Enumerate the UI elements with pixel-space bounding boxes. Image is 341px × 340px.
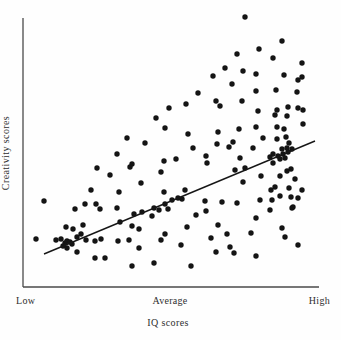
scatter-points xyxy=(33,14,305,268)
data-point xyxy=(250,145,255,150)
data-point xyxy=(158,169,163,174)
data-point xyxy=(284,113,289,118)
data-point xyxy=(274,107,279,112)
data-point xyxy=(188,263,193,268)
y-axis-title: Creativity scores xyxy=(0,116,11,190)
data-point xyxy=(151,260,156,265)
data-point xyxy=(116,189,121,194)
data-point xyxy=(82,201,87,206)
data-point xyxy=(162,231,167,236)
data-point xyxy=(299,187,304,192)
data-point xyxy=(136,245,141,250)
data-point xyxy=(229,81,234,86)
data-point xyxy=(129,263,134,268)
data-point xyxy=(300,121,305,126)
data-point xyxy=(203,208,208,213)
data-point xyxy=(204,160,209,165)
data-point xyxy=(63,224,68,229)
data-point xyxy=(126,237,131,242)
data-point xyxy=(102,255,107,260)
data-point xyxy=(258,173,263,178)
x-tick-average: Average xyxy=(152,295,187,306)
data-point xyxy=(190,145,195,150)
data-point xyxy=(253,124,258,129)
data-point xyxy=(239,98,244,103)
data-point xyxy=(184,224,189,229)
data-point xyxy=(208,235,213,240)
data-point xyxy=(98,236,103,241)
data-point xyxy=(286,185,291,190)
data-point xyxy=(234,51,239,56)
data-point xyxy=(240,68,245,73)
data-point xyxy=(272,184,277,189)
x-tick-low: Low xyxy=(16,295,36,306)
data-point xyxy=(183,101,188,106)
data-point xyxy=(158,237,163,242)
data-point xyxy=(272,112,277,117)
data-point xyxy=(88,187,93,192)
data-point xyxy=(292,176,297,181)
data-point xyxy=(217,103,222,108)
data-point xyxy=(300,107,305,112)
data-point xyxy=(277,173,282,178)
data-point xyxy=(195,90,200,95)
data-point xyxy=(283,134,288,139)
data-point xyxy=(202,198,207,203)
data-point xyxy=(80,222,85,227)
data-point xyxy=(295,77,300,82)
data-point xyxy=(203,153,208,158)
data-point xyxy=(273,87,278,92)
data-point xyxy=(74,249,79,254)
data-point xyxy=(161,189,166,194)
data-point xyxy=(97,206,102,211)
data-point xyxy=(224,231,229,236)
x-tick-high: High xyxy=(309,295,330,306)
data-point xyxy=(107,172,112,177)
data-point xyxy=(230,139,235,144)
data-point xyxy=(294,89,299,94)
data-point xyxy=(93,201,98,206)
data-point xyxy=(219,199,224,204)
data-point xyxy=(231,250,236,255)
data-point xyxy=(227,244,232,249)
data-point xyxy=(232,167,237,172)
data-point xyxy=(214,141,219,146)
data-point xyxy=(285,104,290,109)
data-point xyxy=(295,242,300,247)
x-axis-title: IQ scores xyxy=(147,317,189,328)
data-point xyxy=(282,234,287,239)
data-point xyxy=(255,108,260,113)
data-point xyxy=(289,205,294,210)
data-point xyxy=(53,237,58,242)
data-point xyxy=(166,105,171,110)
data-point xyxy=(279,225,284,230)
data-point xyxy=(185,131,190,136)
data-point xyxy=(256,46,261,51)
data-point xyxy=(236,126,241,131)
data-point xyxy=(165,206,170,211)
data-point xyxy=(286,140,291,145)
data-point xyxy=(94,165,99,170)
data-point xyxy=(279,38,284,43)
data-point xyxy=(277,193,282,198)
data-point xyxy=(115,238,120,243)
data-point xyxy=(64,245,69,250)
data-point xyxy=(248,230,253,235)
data-point xyxy=(162,125,167,130)
data-point xyxy=(270,160,275,165)
data-point xyxy=(149,213,154,218)
data-point xyxy=(138,180,143,185)
data-point xyxy=(129,223,134,228)
data-point xyxy=(127,164,132,169)
data-point xyxy=(173,156,178,161)
data-point xyxy=(114,205,119,210)
data-point xyxy=(253,88,258,93)
data-point xyxy=(279,146,284,151)
data-point xyxy=(253,215,258,220)
data-point xyxy=(136,226,141,231)
data-point xyxy=(178,242,183,247)
data-point xyxy=(114,151,119,156)
data-point xyxy=(295,105,300,110)
scatter-plot-svg: Low Average High IQ scores Creativity sc… xyxy=(0,0,341,340)
data-point xyxy=(142,140,147,145)
